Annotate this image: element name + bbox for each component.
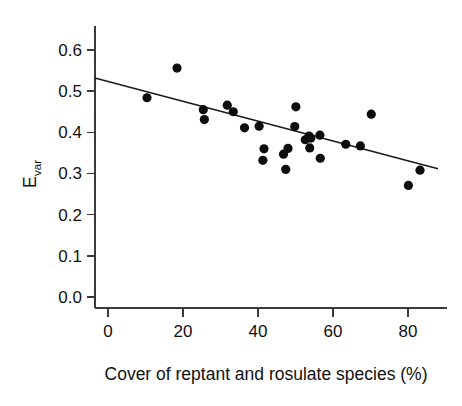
- y-tick-label: 0.5: [58, 82, 82, 101]
- data-point: [316, 154, 325, 163]
- x-tick-label: 60: [324, 322, 343, 341]
- y-axis-title-base: E: [20, 176, 40, 188]
- data-point: [255, 122, 264, 131]
- data-points-group: [142, 63, 424, 190]
- y-tick-label: 0.0: [58, 288, 82, 307]
- data-point: [172, 63, 181, 72]
- y-tick-label: 0.4: [58, 123, 82, 142]
- regression-line: [95, 78, 438, 169]
- x-axis-tick-labels: 020406080: [103, 322, 417, 341]
- data-point: [200, 115, 209, 124]
- y-tick-label: 0.1: [58, 247, 82, 266]
- data-point: [283, 144, 292, 153]
- x-tick-label: 0: [103, 322, 112, 341]
- data-point: [259, 144, 268, 153]
- data-point: [199, 105, 208, 114]
- data-point: [356, 141, 365, 150]
- data-point: [415, 166, 424, 175]
- y-axis-title: E var: [20, 160, 43, 188]
- y-tick-label: 0.6: [58, 41, 82, 60]
- data-point: [341, 140, 350, 149]
- axes-group: [95, 26, 447, 308]
- data-point: [315, 131, 324, 140]
- data-point: [290, 122, 299, 131]
- y-tick-label: 0.2: [58, 206, 82, 225]
- x-tick-label: 20: [174, 322, 193, 341]
- data-point: [240, 123, 249, 132]
- data-point: [142, 93, 151, 102]
- data-point: [258, 156, 267, 165]
- data-point: [305, 143, 314, 152]
- y-axis-tick-labels: 0.00.10.20.30.40.50.6: [58, 41, 82, 307]
- y-axis-ticks: [87, 50, 95, 297]
- plot-canvas: 0.00.10.20.30.40.50.6 020406080 E var Co…: [0, 0, 462, 406]
- data-point: [291, 102, 300, 111]
- scatter-plot-figure: 0.00.10.20.30.40.50.6 020406080 E var Co…: [0, 0, 462, 406]
- x-tick-label: 40: [249, 322, 268, 341]
- data-point: [229, 107, 238, 116]
- y-axis-title-subscript: var: [31, 160, 43, 176]
- x-axis-ticks: [108, 308, 408, 317]
- y-tick-label: 0.3: [58, 164, 82, 183]
- data-point: [367, 110, 376, 119]
- data-point: [404, 181, 413, 190]
- data-point: [281, 165, 290, 174]
- data-point: [306, 133, 315, 142]
- x-axis-title: Cover of reptant and rosulate species (%…: [105, 364, 428, 384]
- x-tick-label: 80: [399, 322, 418, 341]
